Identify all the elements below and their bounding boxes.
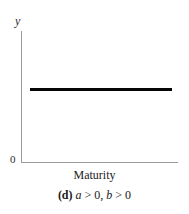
- figure-caption: (d) a > 0, b > 0: [0, 188, 189, 203]
- relation-a: >: [82, 188, 95, 202]
- figure-panel-d: y 0 Maturity (d) a > 0, b > 0: [0, 0, 189, 214]
- x-axis-title: Maturity: [0, 168, 189, 183]
- relation-b: >: [112, 188, 125, 202]
- y-axis-line: [21, 31, 22, 163]
- value-b: 0: [125, 188, 131, 202]
- yield-curve-line: [30, 88, 172, 91]
- plot-area: y 0: [0, 0, 189, 170]
- y-axis-label: y: [15, 14, 20, 28]
- panel-id-label: (d): [58, 188, 73, 202]
- origin-label: 0: [10, 153, 16, 165]
- x-axis-line: [21, 162, 178, 163]
